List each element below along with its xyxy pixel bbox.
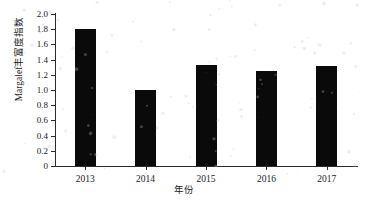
- y-tick-label: 1.2: [18, 70, 48, 79]
- chart-figure: Margalef丰富度指数 2.01.81.61.41.21.00.80.60.…: [0, 0, 367, 207]
- y-tick-mark: [51, 105, 55, 106]
- y-tick-mark: [51, 14, 55, 15]
- y-tick-label: 1.6: [18, 40, 48, 49]
- y-tick-mark: [51, 151, 55, 152]
- y-tick-mark: [51, 75, 55, 76]
- y-tick-label: 2.0: [18, 10, 48, 19]
- y-tick-mark: [51, 90, 55, 91]
- bar-2015: [196, 65, 217, 166]
- bar-2017: [316, 66, 337, 166]
- x-tick-mark: [266, 166, 267, 170]
- y-tick-mark: [51, 60, 55, 61]
- y-tick-label: 0.4: [18, 131, 48, 140]
- y-tick-label: 0.2: [18, 146, 48, 155]
- y-tick-mark: [51, 44, 55, 45]
- x-tick-mark: [206, 166, 207, 170]
- y-tick-mark: [51, 136, 55, 137]
- bar-2013: [75, 29, 96, 166]
- y-tick-label: 0.8: [18, 101, 48, 110]
- x-tick-mark: [146, 166, 147, 170]
- y-tick-label: 1.8: [18, 25, 48, 34]
- y-tick-mark: [51, 166, 55, 167]
- x-axis-title: 年份: [0, 182, 367, 196]
- y-tick-label: 0.6: [18, 116, 48, 125]
- y-tick-mark: [51, 120, 55, 121]
- y-tick-label: 0: [18, 162, 48, 171]
- x-tick-mark: [327, 166, 328, 170]
- y-tick-label: 1.0: [18, 86, 48, 95]
- y-tick-label: 1.4: [18, 55, 48, 64]
- y-tick-mark: [51, 29, 55, 30]
- plot-area: 2.01.81.61.41.21.00.80.60.40.20 20132014…: [55, 14, 357, 166]
- bar-2016: [256, 71, 277, 166]
- x-tick-mark: [85, 166, 86, 170]
- bar-2014: [135, 90, 156, 166]
